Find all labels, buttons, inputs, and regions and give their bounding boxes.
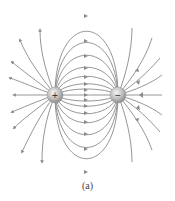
positive-charge: + bbox=[47, 87, 63, 103]
figure-caption: (a) bbox=[0, 180, 175, 191]
svg-text:−: − bbox=[115, 90, 121, 101]
negative-charge: − bbox=[110, 87, 126, 103]
svg-text:+: + bbox=[52, 90, 58, 101]
electric-dipole-field-diagram: + − bbox=[0, 0, 175, 201]
midline-arrows bbox=[84, 14, 88, 174]
